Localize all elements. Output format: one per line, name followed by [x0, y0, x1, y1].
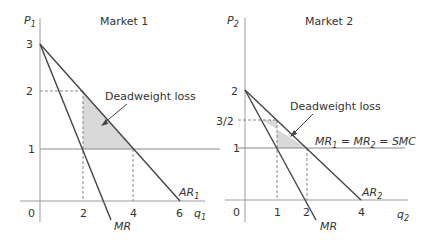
- y-tick-1-m2: 1: [233, 142, 240, 155]
- market-2-panel: P2 Market 2 2 3/2 1 Deadweight loss MR1 …: [216, 14, 416, 233]
- market-1-title: Market 1: [100, 15, 148, 28]
- ar-curve-1: [40, 44, 180, 201]
- ar-label-2: AR2: [361, 186, 382, 201]
- x-tick-4-m2: 4: [358, 206, 365, 219]
- origin-label-2: 0: [233, 206, 240, 219]
- price-discrimination-diagram: P1 Market 1 3 2 1 Deadweight loss 0 2 4 …: [0, 0, 433, 245]
- x-tick-6: 6: [176, 207, 183, 220]
- x-tick-2-m2: 2: [303, 206, 310, 219]
- deadweight-loss-label-1: Deadweight loss: [105, 90, 196, 103]
- ar-label-1: AR1: [178, 186, 199, 201]
- y-axis-label-1: P1: [24, 14, 36, 29]
- x-tick-1-m2: 1: [274, 206, 281, 219]
- deadweight-loss-label-2: Deadweight loss: [290, 100, 381, 113]
- smc-label: MR1 = MR2 = SMC: [315, 135, 416, 150]
- x-axis-label-1: q1: [194, 207, 206, 222]
- mr-label-2: MR: [320, 220, 337, 233]
- x-axis-label-2: q2: [397, 208, 409, 223]
- mr-label-1: MR: [114, 220, 131, 233]
- origin-label-1: 0: [28, 207, 35, 220]
- y-tick-2-m2: 2: [231, 85, 238, 98]
- y-tick-2: 2: [26, 85, 33, 98]
- market-1-panel: P1 Market 1 3 2 1 Deadweight loss 0 2 4 …: [20, 14, 220, 233]
- y-axis-label-2: P2: [227, 14, 239, 29]
- y-tick-1: 1: [28, 143, 35, 156]
- x-tick-2: 2: [80, 207, 87, 220]
- y-tick-32-m2: 3/2: [216, 115, 234, 128]
- market-2-title: Market 2: [305, 15, 353, 28]
- x-tick-4: 4: [130, 207, 137, 220]
- y-tick-3: 3: [26, 38, 33, 51]
